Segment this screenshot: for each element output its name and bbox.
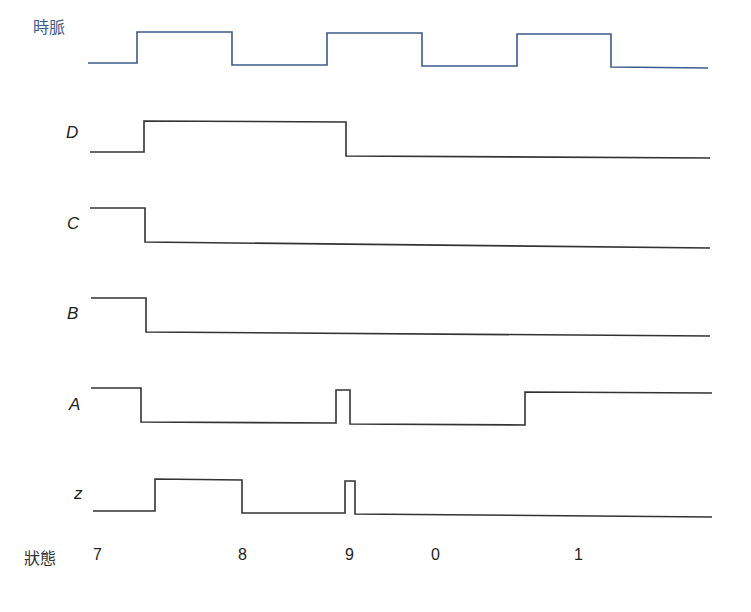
a-waveform [91,388,712,425]
state-row-title: 狀態 [24,545,56,569]
signal-label-c: C [67,214,79,234]
signal-label-a: A [69,395,80,415]
d-waveform [90,121,710,158]
timing-diagram [0,0,751,612]
state-value: 9 [345,546,354,564]
z-waveform [93,479,712,517]
signal-label-d: D [66,123,78,143]
c-waveform [90,208,710,248]
state-value: 8 [238,546,247,564]
state-value: 7 [93,546,102,564]
state-value: 1 [574,546,583,564]
signal-label-z: z [74,484,83,504]
state-value: 0 [431,546,440,564]
signal-label-b: B [67,304,78,324]
clock-label: 時脈 [33,14,65,38]
clock-waveform [88,32,708,68]
b-waveform [91,298,710,336]
